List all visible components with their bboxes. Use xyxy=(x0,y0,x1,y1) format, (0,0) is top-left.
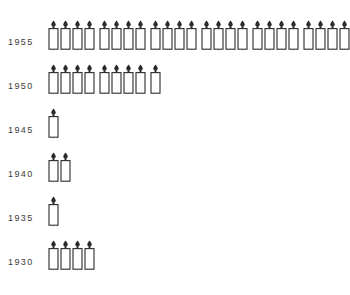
candle-icon xyxy=(237,20,248,50)
pictogram-row: 1940 xyxy=(0,138,321,182)
candle-icon xyxy=(252,20,263,50)
candle-icon xyxy=(276,20,287,50)
candle-icon xyxy=(174,20,185,50)
candle-icon xyxy=(162,20,173,50)
candle-icon xyxy=(201,20,212,50)
candle-icon xyxy=(264,20,275,50)
pictogram-row: 1945 xyxy=(0,94,321,138)
candle-icon xyxy=(48,240,59,270)
row-label-1935: 1935 xyxy=(8,213,44,223)
candle-icon xyxy=(48,196,59,226)
candle-icon xyxy=(288,20,299,50)
candle-icon xyxy=(60,240,71,270)
icon-track xyxy=(48,60,161,94)
icon-group xyxy=(150,64,161,94)
candle-icon xyxy=(48,64,59,94)
candle-icon xyxy=(123,20,134,50)
candle-icon xyxy=(315,20,326,50)
icon-group xyxy=(48,196,59,226)
candle-icon xyxy=(72,64,83,94)
candle-icon xyxy=(327,20,338,50)
icon-group xyxy=(48,240,95,270)
candle-icon xyxy=(48,152,59,182)
icon-group xyxy=(99,20,146,50)
row-label-1950: 1950 xyxy=(8,81,44,91)
icon-group xyxy=(48,20,95,50)
icon-group xyxy=(99,64,146,94)
candle-icon xyxy=(213,20,224,50)
icon-track xyxy=(48,236,95,270)
pictogram-row: 1935 xyxy=(0,182,321,226)
candle-icon xyxy=(99,20,110,50)
pictogram-row: 1950 xyxy=(0,50,321,94)
candle-icon xyxy=(135,64,146,94)
candle-icon xyxy=(150,20,161,50)
candle-icon xyxy=(225,20,236,50)
row-label-1945: 1945 xyxy=(8,125,44,135)
row-label-1940: 1940 xyxy=(8,169,44,179)
icon-track xyxy=(48,16,350,50)
candle-icon xyxy=(60,64,71,94)
icon-group xyxy=(48,108,59,138)
candle-icon xyxy=(84,20,95,50)
candle-icon xyxy=(99,64,110,94)
icon-track xyxy=(48,104,59,138)
icon-track xyxy=(48,192,59,226)
row-label-1930: 1930 xyxy=(8,257,44,267)
candle-icon xyxy=(72,20,83,50)
pictogram-row: 1930 xyxy=(0,226,321,270)
candle-icon xyxy=(48,20,59,50)
candle-icon xyxy=(111,20,122,50)
pictogram-row: 1955 xyxy=(0,6,321,50)
candle-icon xyxy=(60,20,71,50)
candle-icon xyxy=(72,240,83,270)
candle-icon xyxy=(135,20,146,50)
icon-group xyxy=(48,152,71,182)
candle-icon xyxy=(84,64,95,94)
icon-group xyxy=(252,20,299,50)
candle-icon xyxy=(111,64,122,94)
candle-icon xyxy=(303,20,314,50)
candle-icon xyxy=(339,20,350,50)
candle-icon xyxy=(60,152,71,182)
candle-icon xyxy=(150,64,161,94)
icon-group xyxy=(201,20,248,50)
row-label-1955: 1955 xyxy=(8,37,44,47)
icon-group xyxy=(150,20,197,50)
icon-group xyxy=(303,20,350,50)
candle-icon xyxy=(186,20,197,50)
candle-icon xyxy=(84,240,95,270)
candle-icon xyxy=(48,108,59,138)
icon-group xyxy=(48,64,95,94)
candle-icon xyxy=(123,64,134,94)
icon-track xyxy=(48,148,71,182)
